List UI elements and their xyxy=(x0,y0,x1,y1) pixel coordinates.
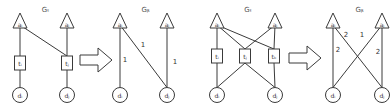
edge-weight-label: 1 xyxy=(123,56,127,64)
node-label: aⱼ xyxy=(65,21,70,28)
panel-example-1-bipartite: 111Gᵦaᵢaⱼdᵢdⱼ xyxy=(113,6,178,103)
panel-example-2-tripartite: Gₜaᵢaⱼtᵢtⱼtₖdᵢdⱼ xyxy=(210,6,283,103)
node-label: dⱼ xyxy=(65,92,70,99)
tripartite-to-bipartite-diagram: Gₜaᵢaⱼtᵢtⱼdᵢdⱼ111GᵦaᵢaⱼdᵢdⱼGₜaᵢaⱼtᵢtⱼtₖd… xyxy=(0,0,392,108)
node-label: aⱼ xyxy=(165,21,170,28)
edge-a1-t2 xyxy=(20,25,67,56)
edge-weight-label: 1 xyxy=(141,41,145,49)
graph-title: Gᵦ xyxy=(355,6,363,14)
node-a1: aᵢ xyxy=(326,13,340,28)
edge-a1-t3 xyxy=(217,25,274,49)
node-a2: aⱼ xyxy=(160,13,174,28)
edge-t2-d2 xyxy=(245,63,275,88)
edge-weight-label: 1 xyxy=(173,58,177,66)
node-label: tᵢ xyxy=(215,53,218,60)
node-label: dᵢ xyxy=(331,92,336,99)
edge-a2-t2 xyxy=(245,25,275,49)
node-a2: aⱼ xyxy=(60,13,74,28)
node-a1: aᵢ xyxy=(13,13,27,28)
node-label: dᵢ xyxy=(118,92,123,99)
node-t1: tᵢ xyxy=(212,49,223,63)
edge-weight-label: 1 xyxy=(360,31,364,39)
node-d1: dᵢ xyxy=(210,88,225,103)
node-label: dᵢ xyxy=(18,92,23,99)
node-label: aᵢ xyxy=(118,21,123,28)
node-d1: dᵢ xyxy=(326,88,341,103)
node-d2: dⱼ xyxy=(160,88,175,103)
node-t2: tⱼ xyxy=(240,49,251,63)
right-arrow-icon xyxy=(289,46,321,70)
panel-example-2-bipartite: 2212Gᵦaᵢaⱼdᵢdⱼ xyxy=(326,6,390,103)
panel-example-1-tripartite: Gₜaᵢaⱼtᵢtⱼdᵢdⱼ xyxy=(13,6,75,103)
node-label: aᵢ xyxy=(18,21,23,28)
edge-a2-t3 xyxy=(274,25,275,49)
node-d1: dᵢ xyxy=(13,88,28,103)
edge-a1-t2 xyxy=(217,25,245,49)
edge-weight-label: 2 xyxy=(376,48,380,56)
node-label: dⱼ xyxy=(165,92,170,99)
node-label: aᵢ xyxy=(215,21,220,28)
edge-t2-d1 xyxy=(217,63,245,88)
edge-t3-d2 xyxy=(274,63,275,88)
node-a1: aᵢ xyxy=(210,13,224,28)
node-label: tⱼ xyxy=(65,60,68,67)
node-label: tₖ xyxy=(272,53,277,60)
node-label: aᵢ xyxy=(331,21,336,28)
node-a2: aⱼ xyxy=(375,13,389,28)
right-arrow-icon xyxy=(80,48,112,72)
node-a1: aᵢ xyxy=(113,13,127,28)
node-label: dⱼ xyxy=(273,92,278,99)
graph-title: Gₜ xyxy=(244,6,252,14)
node-t1: tᵢ xyxy=(15,56,26,70)
node-label: tᵢ xyxy=(18,60,21,67)
node-d2: dⱼ xyxy=(268,88,283,103)
node-t3: tₖ xyxy=(269,49,280,63)
node-d2: dⱼ xyxy=(375,88,390,103)
node-d2: dⱼ xyxy=(60,88,75,103)
graph-title: Gᵦ xyxy=(141,6,149,14)
node-a2: aⱼ xyxy=(268,13,282,28)
node-label: dⱼ xyxy=(380,92,385,99)
node-t2: tⱼ xyxy=(62,56,73,70)
node-d1: dᵢ xyxy=(113,88,128,103)
node-label: aⱼ xyxy=(273,21,278,28)
graph-title: Gₜ xyxy=(42,6,50,14)
edge-weight-label: 2 xyxy=(344,31,348,39)
node-label: tⱼ xyxy=(243,53,246,60)
node-label: dᵢ xyxy=(215,92,220,99)
node-label: aⱼ xyxy=(380,21,385,28)
edge-weight-label: 2 xyxy=(336,46,340,54)
